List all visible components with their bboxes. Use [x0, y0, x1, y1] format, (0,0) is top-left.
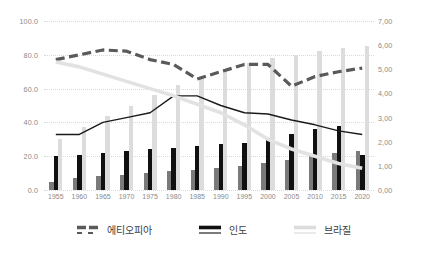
- legend-label-india: 인도: [229, 222, 247, 237]
- chart-legend: 에티오피아 인도 브라질: [0, 222, 427, 237]
- y-axis-left-tick-label: 100.0: [2, 17, 38, 26]
- line-series: [56, 50, 362, 86]
- y-axis-left-tick-label: 40.0: [2, 118, 38, 127]
- y-axis-right-tick-label: 3,00: [378, 114, 418, 123]
- legend-item-ethiopia[interactable]: 에티오피아: [76, 222, 152, 237]
- thick-gray-line-swatch: [293, 224, 317, 236]
- y-axis-right-tick-label: 5,00: [378, 65, 418, 74]
- x-axis-tick-label: 2020: [345, 193, 379, 200]
- y-axis-right-tick-label: 2,00: [378, 138, 418, 147]
- y-axis-left-tick-label: 60.0: [2, 85, 38, 94]
- y-axis-right-tick-label: 7,00: [378, 17, 418, 26]
- legend-label-brazil: 브라질: [324, 222, 351, 237]
- y-axis-left-tick-label: 80.0: [2, 51, 38, 60]
- dashed-line-swatch: [76, 224, 100, 236]
- gridline: [44, 190, 374, 191]
- y-axis-right-tick-label: 1,00: [378, 162, 418, 171]
- solid-line-swatch: [198, 224, 222, 236]
- line-series: [56, 62, 362, 168]
- y-axis-right-tick-label: 6,00: [378, 41, 418, 50]
- y-axis-left-tick-label: 0.0: [2, 186, 38, 195]
- plot-area: [44, 21, 374, 190]
- y-axis-right-tick-label: 4,00: [378, 89, 418, 98]
- legend-item-brazil[interactable]: 브라질: [293, 222, 351, 237]
- y-axis-right-tick-label: 0,00: [378, 186, 418, 195]
- y-axis-left-tick-label: 20.0: [2, 152, 38, 161]
- chart-container: 0.020.040.060.080.0100.0 0,001,002,003,0…: [0, 0, 427, 261]
- legend-item-india[interactable]: 인도: [198, 222, 247, 237]
- line-series-layer: [44, 21, 374, 190]
- legend-label-ethiopia: 에티오피아: [107, 222, 152, 237]
- line-series: [56, 96, 362, 135]
